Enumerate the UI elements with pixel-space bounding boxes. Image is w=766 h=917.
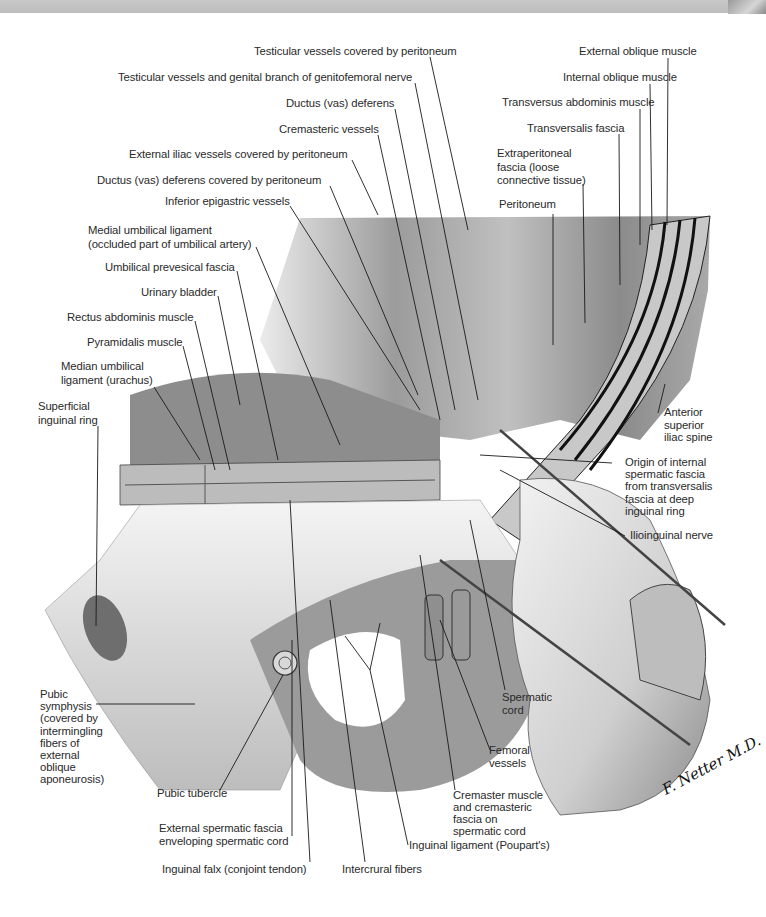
label-anterior-superior-iliac-spine: Anterior superior iliac spine xyxy=(664,406,713,444)
label-transversus-abdominis: Transversus abdominis muscle xyxy=(502,96,654,110)
label-pubic-symphysis: Pubic symphysis (covered by interminglin… xyxy=(40,688,104,786)
label-external-iliac-vessels: External iliac vessels covered by perito… xyxy=(129,148,348,162)
label-ductus-deferens-covered: Ductus (vas) deferens covered by periton… xyxy=(97,174,321,188)
label-external-oblique-muscle: External oblique muscle xyxy=(579,45,697,59)
label-external-spermatic-fascia: External spermatic fascia enveloping spe… xyxy=(159,822,288,847)
label-umbilical-prevesical-fascia: Umbilical prevesical fascia xyxy=(105,261,235,275)
label-spermatic-cord: Spermatic cord xyxy=(502,691,552,716)
label-cremaster-muscle: Cremaster muscle and cremasteric fascia … xyxy=(453,789,543,837)
label-cremasteric-vessels: Cremasteric vessels xyxy=(279,123,379,137)
label-transversalis-fascia: Transversalis fascia xyxy=(527,122,624,136)
label-intercrural-fibers: Intercrural fibers xyxy=(342,863,422,877)
label-inguinal-ligament: Inguinal ligament (Poupart's) xyxy=(409,839,550,853)
label-testicular-vessels-genital-branch: Testicular vessels and genital branch of… xyxy=(118,71,412,85)
label-rectus-abdominis: Rectus abdominis muscle xyxy=(67,311,193,325)
label-median-umbilical-ligament: Median umbilical ligament (urachus) xyxy=(61,360,153,387)
label-medial-umbilical-ligament: Medial umbilical ligament (occluded part… xyxy=(88,224,252,251)
label-origin-internal-spermatic-fascia: Origin of internal spermatic fascia from… xyxy=(625,456,712,517)
label-urinary-bladder: Urinary bladder xyxy=(141,286,217,300)
label-peritoneum: Peritoneum xyxy=(499,198,556,212)
label-ductus-deferens: Ductus (vas) deferens xyxy=(286,97,394,111)
label-testicular-vessels-covered: Testicular vessels covered by peritoneum xyxy=(254,45,457,59)
label-pyramidalis-muscle: Pyramidalis muscle xyxy=(87,336,183,350)
label-extraperitoneal-fascia: Extraperitoneal fascia (loose connective… xyxy=(497,147,586,188)
label-inferior-epigastric-vessels: Inferior epigastric vessels xyxy=(165,195,290,209)
label-internal-oblique-muscle: Internal oblique muscle xyxy=(563,71,677,85)
label-inguinal-falx: Inguinal falx (conjoint tendon) xyxy=(162,863,306,877)
label-pubic-tubercle: Pubic tubercle xyxy=(157,787,227,801)
label-superficial-inguinal-ring: Superficial inguinal ring xyxy=(38,400,98,427)
label-femoral-vessels: Femoral vessels xyxy=(489,744,530,769)
label-ilioinguinal-nerve: Ilioinguinal nerve xyxy=(630,529,713,543)
